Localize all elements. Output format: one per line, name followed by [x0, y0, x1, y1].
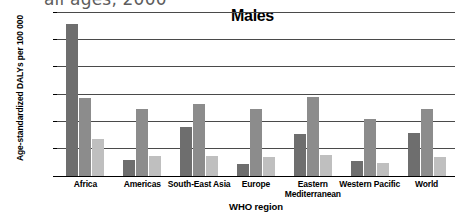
bar-group — [408, 12, 446, 176]
bar — [351, 161, 363, 176]
bar — [250, 109, 262, 176]
plot-area: 0500010 00015 00020 00025 00030 000 — [57, 12, 455, 176]
bar-group — [351, 12, 389, 176]
bar — [307, 97, 319, 176]
x-axis-title: WHO region — [57, 201, 455, 212]
bar — [408, 133, 420, 176]
bar — [294, 134, 306, 176]
bar — [364, 119, 376, 176]
chart-figure: all ages, 2000 Age-standardized DALYs pe… — [0, 0, 465, 219]
bar — [193, 104, 205, 176]
bar-group — [123, 12, 161, 176]
bar-group — [180, 12, 218, 176]
bar — [180, 127, 192, 176]
y-axis-tick-mark — [53, 39, 57, 40]
y-axis-tick-mark — [53, 12, 57, 13]
bar — [421, 109, 433, 176]
y-axis-tick-mark — [53, 176, 57, 177]
bar — [206, 156, 218, 176]
bar-group — [294, 12, 332, 176]
bar — [123, 160, 135, 176]
y-axis-title: Age-standardized DALYs per 100 000 — [15, 8, 25, 168]
bar — [149, 156, 161, 176]
bar — [136, 109, 148, 176]
bar — [263, 157, 275, 176]
y-axis-tick-mark — [53, 121, 57, 122]
bar — [377, 163, 389, 176]
bar — [66, 24, 78, 176]
x-axis-tick-label: World — [390, 180, 463, 190]
bar — [79, 98, 91, 176]
bar — [434, 157, 446, 176]
bar-group — [237, 12, 275, 176]
y-axis-tick-mark — [53, 66, 57, 67]
bar-group — [66, 12, 104, 176]
y-axis-tick-mark — [53, 94, 57, 95]
bar — [92, 139, 104, 176]
bar — [237, 164, 249, 176]
bar — [320, 155, 332, 176]
y-axis-tick-mark — [53, 148, 57, 149]
